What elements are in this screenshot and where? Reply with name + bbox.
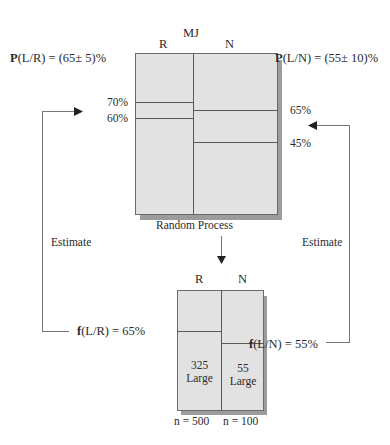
population-r-line-60 (135, 118, 193, 119)
left-estimate-label: Estimate (51, 236, 91, 248)
sample-divider (221, 290, 222, 411)
population-col-r: R (159, 37, 167, 52)
population-n-label-45: 45% (290, 137, 311, 149)
population-r-label-60: 60% (107, 112, 128, 124)
sample-size-r: n = 500 (174, 415, 209, 427)
sample-n-count: 55 (222, 362, 264, 375)
right-bracket-vertical (349, 125, 350, 343)
sample-r-label: Large (178, 372, 221, 385)
population-r-label-70: 70% (107, 96, 128, 108)
right-estimate-label: Estimate (302, 236, 342, 248)
sample-size-n: n = 100 (223, 415, 258, 427)
right-bracket-bottom (326, 342, 350, 343)
sample-n-label: Large (222, 375, 264, 388)
sample-r-cell: 325 Large (178, 359, 221, 385)
left-bracket-top (42, 111, 77, 112)
frequency-right: f(L/N) = 55% (249, 337, 318, 352)
arrow-down-icon (217, 256, 226, 265)
sample-col-n: N (238, 272, 247, 287)
probability-right-symbol: P (275, 51, 283, 65)
frequency-left-text: (L/R) = 65% (81, 324, 145, 338)
probability-right-text: (L/N) = (55± 10)% (283, 51, 378, 65)
random-process-caption: Random Process (156, 219, 233, 231)
sample-r-line (177, 331, 221, 332)
population-title: MJ (183, 26, 199, 41)
right-bracket-top (315, 125, 350, 126)
left-bracket-vertical (42, 111, 43, 332)
probability-left: P(L/R) = (65± 5)% (10, 51, 106, 66)
population-n-line-45 (193, 142, 278, 143)
population-divider (193, 53, 194, 215)
sample-n-cell: 55 Large (222, 362, 264, 388)
sample-col-r: R (195, 272, 203, 287)
frequency-left: f(L/R) = 65% (77, 324, 145, 339)
left-bracket-bottom (42, 331, 69, 332)
population-n-line-65 (193, 110, 278, 111)
sampling-arrow-shaft (221, 236, 222, 258)
sample-r-count: 325 (178, 359, 221, 372)
frequency-right-text: (L/N) = 55% (253, 337, 318, 351)
population-n-label-65: 65% (290, 104, 311, 116)
probability-left-symbol: P (10, 51, 18, 65)
probability-left-text: (L/R) = (65± 5)% (18, 51, 107, 65)
population-col-n: N (225, 37, 234, 52)
population-box-fill (135, 53, 278, 215)
population-r-line-70 (135, 102, 193, 103)
arrow-right-icon (74, 107, 83, 116)
arrow-left-icon (308, 121, 317, 130)
probability-right: P(L/N) = (55± 10)% (275, 51, 378, 66)
